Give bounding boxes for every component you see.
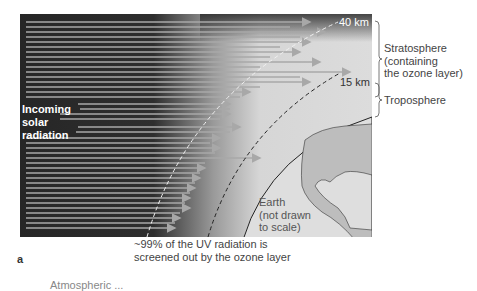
stratosphere-label: Stratosphere (containing the ozone layer… — [384, 42, 463, 80]
altitude-15km-label: 15 km — [340, 76, 370, 88]
earth-label: Earth (not drawn to scale) — [259, 196, 311, 234]
troposphere-label: Troposphere — [384, 94, 446, 107]
troposphere-brace — [375, 83, 382, 117]
cutoff-text: Atmospheric ... — [50, 279, 123, 291]
altitude-40km-label: 40 km — [339, 16, 369, 28]
uv-caption: ~99% of the UV radiation is screened out… — [134, 238, 291, 263]
incoming-solar-radiation-label: Incoming solar radiation — [22, 103, 71, 142]
panel-label: a — [17, 253, 23, 265]
